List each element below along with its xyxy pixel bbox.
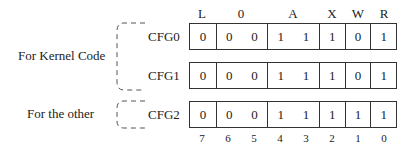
field-header-r: R [371, 6, 397, 22]
bit-number-5: 5 [241, 131, 267, 145]
bit-1: 1 [345, 102, 371, 127]
bit-number-3: 3 [293, 131, 319, 145]
bit-number-6: 6 [215, 131, 241, 145]
bit-0: 1 [370, 63, 396, 88]
group-label-kernel-code: For Kernel Code [18, 48, 105, 64]
bit-5: 0 [242, 63, 268, 88]
register-label-cfg0: CFG0 [148, 23, 188, 50]
field-header-w: W [345, 6, 371, 22]
register-cfg1: 0 0 0 1 1 1 0 1 [189, 62, 397, 89]
field-header-l: L [189, 6, 215, 22]
bit-0: 1 [370, 102, 396, 127]
bit-3: 1 [293, 102, 319, 127]
register-cfg0: 0 0 0 1 1 1 0 1 [189, 23, 397, 50]
bit-2: 1 [319, 24, 345, 49]
bit-7: 0 [190, 63, 216, 88]
bit-0: 1 [370, 24, 396, 49]
bit-4: 1 [267, 102, 293, 127]
bit-1: 0 [345, 24, 371, 49]
bit-2: 1 [319, 63, 345, 88]
bit-number-0: 0 [371, 131, 397, 145]
bit-6: 0 [216, 102, 242, 127]
bit-7: 0 [190, 24, 216, 49]
bit-5: 0 [242, 24, 268, 49]
field-header-zero: 0 [228, 6, 254, 22]
bit-number-1: 1 [345, 131, 371, 145]
bit-3: 1 [293, 24, 319, 49]
group-label-other: For the other [27, 106, 94, 122]
bit-1: 0 [345, 63, 371, 88]
bit-number-2: 2 [319, 131, 345, 145]
kernel-group-bracket [117, 23, 145, 90]
bit-5: 0 [242, 102, 268, 127]
register-label-cfg2: CFG2 [148, 101, 188, 128]
bit-6: 0 [216, 24, 242, 49]
bit-number-7: 7 [189, 131, 215, 145]
bit-3: 1 [293, 63, 319, 88]
register-label-cfg1: CFG1 [148, 62, 188, 89]
bit-number-4: 4 [267, 131, 293, 145]
bit-7: 0 [190, 102, 216, 127]
field-header-a: A [280, 6, 306, 22]
bit-4: 1 [267, 24, 293, 49]
bit-6: 0 [216, 63, 242, 88]
bit-4: 1 [267, 63, 293, 88]
field-header-x: X [319, 6, 345, 22]
bit-2: 1 [319, 102, 345, 127]
register-cfg2: 0 0 0 1 1 1 1 1 [189, 101, 397, 128]
other-group-bracket [117, 101, 145, 128]
